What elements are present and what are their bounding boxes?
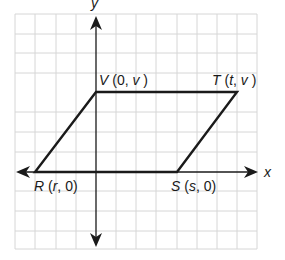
y-axis-label: y	[90, 0, 99, 11]
vertex-label-r: R (r, 0)	[34, 178, 78, 194]
vertex-label-s: S (s, 0)	[171, 178, 216, 194]
x-axis-label: x	[263, 164, 272, 180]
coordinate-plane: x y V (0, v ) T (t, v ) R (r, 0) S (s, 0…	[0, 0, 285, 260]
vertex-label-v: V (0, v )	[99, 72, 148, 88]
grid	[15, 14, 257, 249]
vertex-label-t: T (t, v )	[212, 72, 256, 88]
